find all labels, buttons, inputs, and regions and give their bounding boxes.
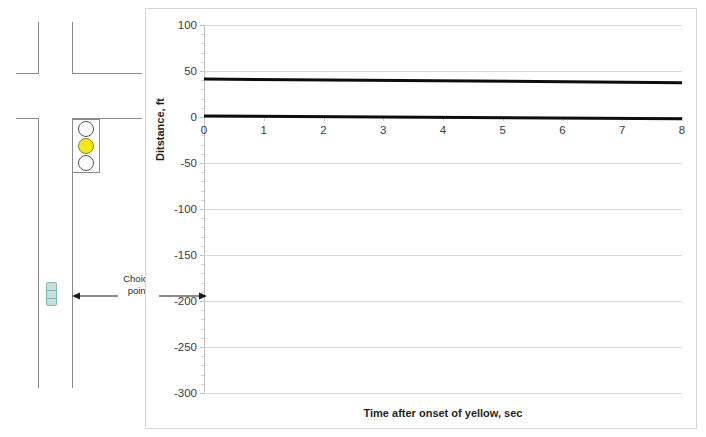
y-axis-tick-label: -250: [174, 341, 197, 353]
car-icon: [46, 282, 57, 306]
y-axis-minor-tick: [201, 200, 204, 201]
y-axis-minor-tick: [201, 145, 204, 146]
road-edge-upper-left-vertical: [38, 22, 39, 74]
series-line-upper-boundary: [204, 78, 682, 85]
y-axis-minor-tick: [201, 191, 204, 192]
choice-point-arrow-right-icon: [159, 291, 207, 301]
y-axis-minor-tick: [201, 53, 204, 54]
x-axis-tick-label: 1: [261, 124, 267, 136]
gridline: [204, 255, 682, 256]
y-axis-tick: [200, 393, 204, 394]
y-axis-minor-tick: [201, 310, 204, 311]
x-axis-tick-label: 8: [679, 124, 685, 136]
x-axis-title: Time after onset of yellow, sec: [204, 407, 682, 419]
y-axis-tick: [200, 209, 204, 210]
gridline: [204, 25, 682, 26]
x-axis-tick: [682, 117, 683, 121]
gridline: [204, 301, 682, 302]
y-axis-minor-tick: [201, 43, 204, 44]
y-axis-minor-tick: [201, 108, 204, 109]
chart-panel: Ditstance, ft Time after onset of yellow…: [145, 8, 697, 429]
gridline: [204, 393, 682, 394]
y-axis-minor-tick: [201, 356, 204, 357]
x-axis-tick-label: 0: [201, 124, 207, 136]
y-axis-minor-tick: [201, 218, 204, 219]
y-axis-minor-tick: [201, 273, 204, 274]
x-axis-tick-label: 2: [320, 124, 326, 136]
signal-lamp-red-icon: [78, 121, 94, 137]
y-axis-minor-tick: [201, 365, 204, 366]
y-axis-minor-tick: [201, 319, 204, 320]
y-axis-tick: [200, 255, 204, 256]
y-axis-tick-label: 100: [178, 19, 197, 31]
y-axis-minor-tick: [201, 375, 204, 376]
y-axis-minor-tick: [201, 246, 204, 247]
y-axis-minor-tick: [201, 89, 204, 90]
choice-point-arrow-left-icon: [72, 291, 118, 301]
y-axis-tick-label: 0: [191, 111, 197, 123]
y-axis-minor-tick: [201, 264, 204, 265]
signal-lamp-green-icon: [78, 155, 94, 171]
road-edge-upper-right-vertical: [72, 22, 73, 74]
y-axis-minor-tick: [201, 172, 204, 173]
plot-area: 100500-50-100-150-200-250-300 012345678: [204, 25, 682, 393]
y-axis-tick-label: -50: [180, 157, 197, 169]
y-axis-minor-tick: [201, 338, 204, 339]
y-axis-tick-label: 50: [184, 65, 197, 77]
y-axis-title: Ditstance, ft: [154, 98, 166, 161]
y-axis-minor-tick: [201, 283, 204, 284]
traffic-signal: [72, 119, 100, 173]
y-axis-minor-tick: [201, 237, 204, 238]
y-axis-tick: [200, 163, 204, 164]
road-edge-upper-right-horizontal: [72, 73, 142, 74]
y-axis-minor-tick: [201, 154, 204, 155]
y-axis-minor-tick: [201, 99, 204, 100]
y-axis-minor-tick: [201, 384, 204, 385]
gridline: [204, 71, 682, 72]
road-edge-upper-left-horizontal: [16, 73, 39, 74]
y-axis-tick: [200, 25, 204, 26]
y-axis-tick: [200, 347, 204, 348]
y-axis-minor-tick: [201, 329, 204, 330]
y-axis-minor-tick: [201, 34, 204, 35]
gridline: [204, 209, 682, 210]
x-axis-tick-label: 5: [500, 124, 506, 136]
x-axis-tick: [204, 117, 205, 121]
x-axis-tick-label: 4: [440, 124, 446, 136]
gridline: [204, 163, 682, 164]
road-edge-lower-left-vertical: [38, 118, 39, 388]
x-axis-tick-label: 3: [380, 124, 386, 136]
y-axis-tick: [200, 301, 204, 302]
road-edge-lower-left-horizontal: [16, 118, 39, 119]
y-axis-minor-tick: [201, 62, 204, 63]
y-axis-minor-tick: [201, 181, 204, 182]
signal-lamp-yellow-icon: [78, 138, 94, 154]
y-axis-minor-tick: [201, 227, 204, 228]
gridline: [204, 347, 682, 348]
y-axis-tick-label: -100: [174, 203, 197, 215]
x-axis-tick-label: 7: [619, 124, 625, 136]
y-axis-tick: [200, 71, 204, 72]
y-axis-tick-label: -150: [174, 249, 197, 261]
x-axis-tick-label: 6: [559, 124, 565, 136]
y-axis-tick-label: -300: [174, 387, 197, 399]
intersection-diagram: Choice point: [0, 0, 145, 437]
